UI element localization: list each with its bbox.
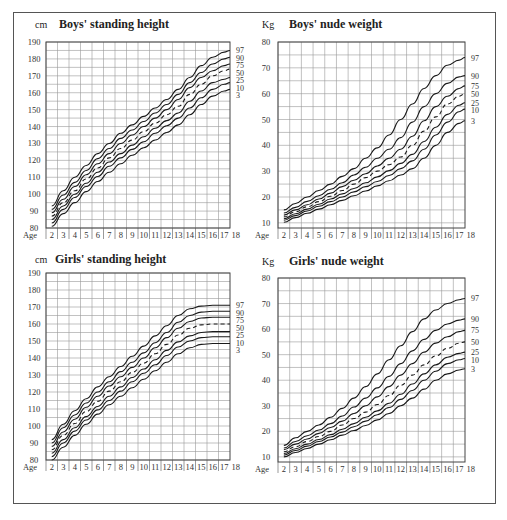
- x-tick-label: 5: [317, 464, 321, 474]
- x-tick-label: 10: [373, 464, 382, 474]
- x-tick-label: 15: [432, 464, 441, 474]
- y-tick-label: 20: [262, 426, 271, 436]
- percentile-label: 10: [471, 356, 479, 365]
- y-tick-label: 10: [262, 452, 271, 462]
- x-tick-label: 17: [455, 464, 464, 474]
- x-axis-label: Age: [255, 464, 269, 474]
- x-tick-label: 8: [352, 464, 356, 474]
- percentile-label: 3: [471, 365, 475, 374]
- plot-svg: 1020304050607080Age234567891011121314151…: [0, 0, 507, 520]
- percentile-curve-90: [284, 319, 465, 448]
- percentile-label: 75: [471, 326, 479, 335]
- x-tick-label: 4: [305, 464, 310, 474]
- percentile-curve-75: [284, 330, 465, 449]
- x-tick-label: 11: [385, 464, 393, 474]
- x-tick-label: 13: [408, 464, 417, 474]
- x-tick-label: 3: [293, 464, 297, 474]
- y-tick-label: 40: [262, 375, 271, 385]
- grid: [278, 278, 465, 462]
- x-tick-label: 7: [340, 464, 344, 474]
- y-tick-label: 80: [262, 273, 271, 283]
- percentile-label: 50: [471, 338, 479, 347]
- x-tick-label: 12: [396, 464, 405, 474]
- x-tick-label: 16: [443, 464, 452, 474]
- x-tick-label: 18: [467, 464, 476, 474]
- percentile-curve-97: [284, 298, 465, 445]
- y-tick-label: 60: [262, 324, 271, 334]
- x-tick-label: 9: [364, 464, 368, 474]
- percentile-label: 97: [471, 294, 479, 303]
- y-tick-label: 30: [262, 401, 271, 411]
- percentile-label: 90: [471, 315, 479, 324]
- x-tick-label: 14: [420, 464, 429, 474]
- y-tick-label: 70: [262, 299, 271, 309]
- y-tick-label: 50: [262, 350, 271, 360]
- x-tick-label: 6: [328, 464, 332, 474]
- x-tick-label: 2: [282, 464, 286, 474]
- percentile-curve-50: [284, 342, 465, 452]
- girls-weight-chart: Kg Girls' nude weight 1020304050607080Ag…: [0, 0, 507, 520]
